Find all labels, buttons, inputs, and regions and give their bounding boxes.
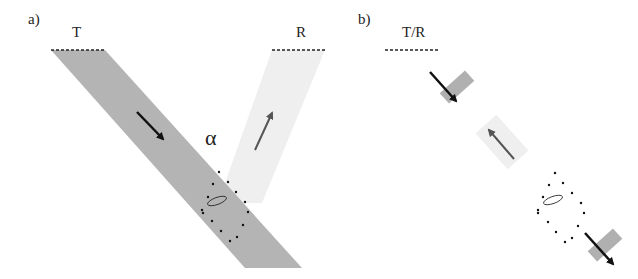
angle-alpha-label: α — [205, 127, 217, 149]
transmitter-label: T — [72, 25, 81, 40]
receiver-label: R — [296, 25, 306, 40]
panel-a — [51, 50, 326, 268]
target-object-icon-b — [542, 193, 563, 206]
transceiver-label: T/R — [402, 25, 425, 40]
echo-pulse-block — [476, 115, 529, 169]
reflected-beam — [218, 50, 325, 203]
target-scatter-dots-b — [537, 172, 585, 243]
panel-b-label: b) — [358, 12, 371, 27]
panel-b — [385, 50, 622, 264]
panel-a-label: a) — [28, 12, 40, 27]
diagram-canvas — [0, 0, 638, 279]
